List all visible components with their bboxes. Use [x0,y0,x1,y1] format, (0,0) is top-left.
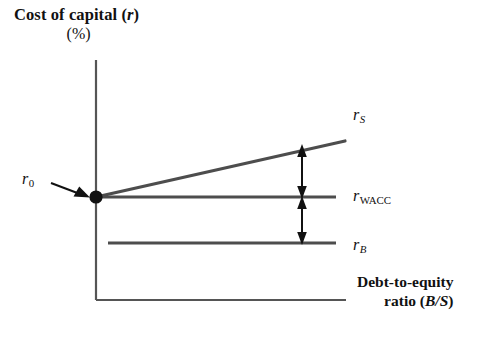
x-axis-title-line2-pre: ratio ( [384,292,425,309]
gap-arrow-rwacc-rb [297,196,307,245]
y-axis-unit: (%) [14,25,139,42]
rb-subscript: B [360,243,367,255]
y-axis-title-text: Cost of capital ( [14,5,127,24]
r0-base: r [22,170,28,187]
x-axis-title-variable: B/S [425,292,448,309]
rs-subscript: S [360,113,365,125]
rwacc-base: r [353,187,359,204]
rs-line [96,141,345,197]
rwacc-subscript: WACC [360,194,391,206]
r0-point-label: r0 [22,170,34,187]
rb-curve-label: rB [353,236,366,253]
x-axis-title-line2: ratio (B/S) [357,293,453,310]
x-axis-title-line1: Debt-to-equity [357,273,453,290]
x-axis-title: Debt-to-equity ratio (B/S) [357,274,453,309]
y-axis-title-close: ) [134,5,140,24]
rs-base: r [353,106,359,123]
r0-pointer-arrow [51,183,90,198]
rb-base: r [353,236,359,253]
rwacc-curve-label: rWACC [353,187,391,204]
x-axis-title-line2-post: ) [448,292,453,309]
r0-subscript: 0 [29,177,34,189]
rs-curve-label: rS [353,106,365,123]
r0-point-marker [89,190,102,203]
cost-of-capital-diagram: Cost of capital (r) (%) Debt-to-equity r… [0,0,488,348]
y-axis-title: Cost of capital (r) (%) [14,6,139,42]
